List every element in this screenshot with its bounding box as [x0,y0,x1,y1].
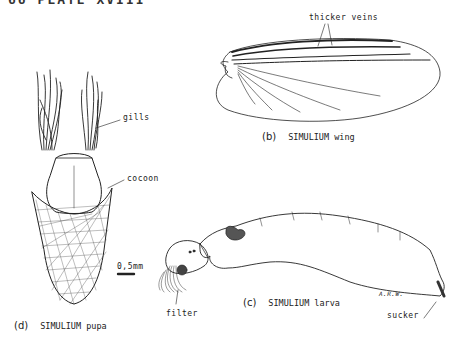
caption-letter-b: (b) [262,131,276,142]
caption-text-larva: SIMULIUM larva [268,298,340,308]
label-thicker-veins: thicker veins [309,13,378,22]
wing-drawing [216,24,440,121]
caption-pupa: (d)SIMULIUM pupa [14,320,107,331]
caption-wing: (b)SIMULIUM wing [262,131,355,142]
label-gills: gills [123,113,150,122]
label-cocoon: cocoon [127,174,159,183]
label-sucker: sucker [387,311,419,320]
caption-letter-c: (c) [243,297,256,308]
caption-larva: (c)SIMULIUM larva [243,297,340,308]
caption-letter-d: (d) [14,320,28,331]
artist-signature: A.R.W. [379,290,404,297]
caption-text-pupa: SIMULIUM pupa [40,321,107,331]
label-filter: filter [166,309,198,318]
caption-text-wing: SIMULIUM wing [288,132,355,142]
scale-bar-label: 0,5mm [117,262,144,271]
